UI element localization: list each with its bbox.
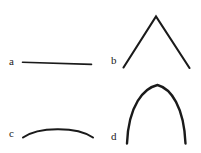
panel-label-d: d bbox=[111, 131, 117, 142]
curve-c-shallow-arc bbox=[23, 129, 93, 137]
curve-a-straight-line bbox=[23, 62, 92, 64]
curves-figure bbox=[0, 0, 201, 153]
panel-label-b: b bbox=[111, 55, 117, 66]
panel-label-a: a bbox=[9, 56, 14, 67]
panel-label-c: c bbox=[9, 128, 14, 139]
figure-container: a b c d bbox=[0, 0, 201, 153]
curve-d-tall-arch bbox=[127, 85, 186, 144]
curve-b-sharp-peak bbox=[124, 17, 190, 69]
